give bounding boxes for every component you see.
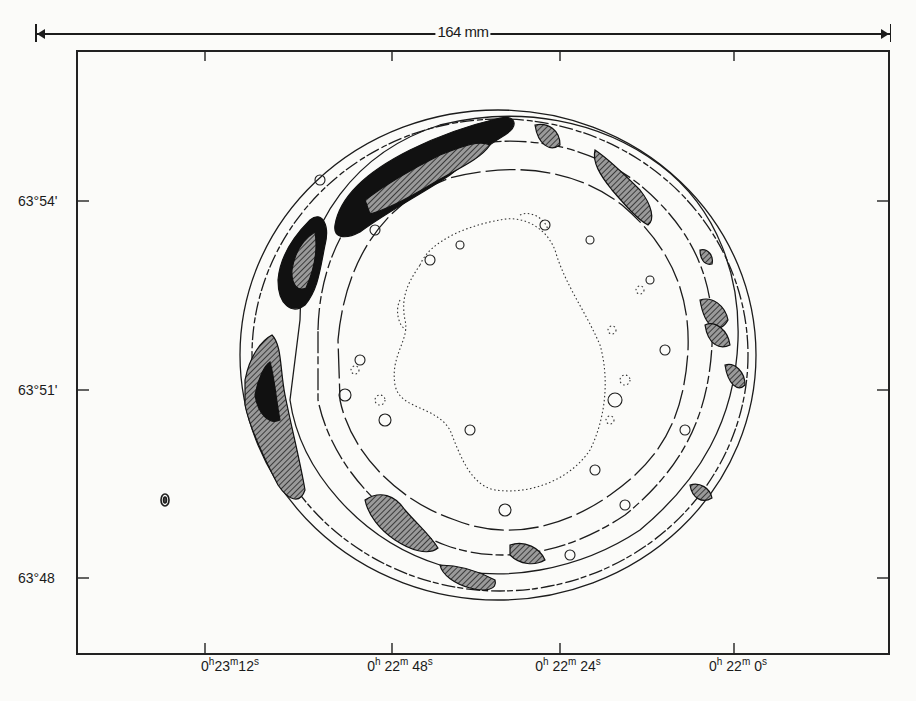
x-tick-label-3: 0h 22m 24s bbox=[535, 656, 601, 674]
x-tick-label-1: 0h23m12s bbox=[201, 656, 259, 674]
outer-contours bbox=[240, 110, 756, 600]
beam-marker bbox=[161, 494, 169, 506]
x-tick-label-2: 0h 22m 48s bbox=[367, 656, 433, 674]
y-tick-label-3: 63°48 bbox=[18, 570, 55, 586]
y-tick-label-1: 63°54' bbox=[18, 193, 57, 209]
bright-emission-regions bbox=[245, 117, 745, 589]
inner-dotted-contours bbox=[351, 213, 644, 490]
y-tick-label-2: 63°51' bbox=[18, 382, 57, 398]
contour-plot bbox=[0, 0, 916, 701]
x-tick-label-4: 0h 22m 0s bbox=[709, 656, 767, 674]
